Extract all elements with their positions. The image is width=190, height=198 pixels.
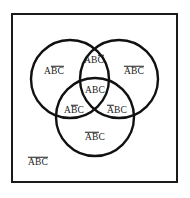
region-label-abc-plain: ABC bbox=[85, 86, 105, 96]
venn-circles-group bbox=[0, 0, 190, 198]
region-label-bc-not-a-bar: A bbox=[107, 105, 114, 116]
region-label-a-only-plain: A bbox=[44, 67, 51, 77]
region-label-ab-not-c-plain: AB bbox=[84, 56, 98, 66]
region-label-c-only-plain: C bbox=[99, 133, 106, 143]
region-label-b-only-bar: ABC bbox=[124, 66, 144, 77]
region-label-c-only: ABC bbox=[85, 132, 105, 143]
region-label-outside-bar: ABC bbox=[28, 157, 48, 168]
region-label-ac-not-b-plain-head: A bbox=[64, 106, 71, 116]
region-label-ab-not-c: ABC bbox=[84, 55, 104, 66]
region-label-outside: ABC bbox=[28, 157, 48, 168]
region-label-bc-not-a-plain: BC bbox=[114, 106, 127, 116]
region-label-a-only: ABC bbox=[44, 66, 64, 77]
region-label-a-only-bar: BC bbox=[51, 66, 64, 77]
region-label-abc: ABC bbox=[85, 86, 105, 96]
region-label-ac-not-b: ABC bbox=[64, 105, 84, 116]
region-label-ab-not-c-bar: C bbox=[98, 55, 105, 66]
region-label-b-only: ABC bbox=[124, 66, 144, 77]
region-label-ac-not-b-plain-tail: C bbox=[78, 106, 85, 116]
venn-diagram-figure: ABC ABC ABC ABC ABC ABC ABC ABC bbox=[0, 0, 190, 198]
region-label-bc-not-a: ABC bbox=[107, 105, 127, 116]
region-label-c-only-bar: AB bbox=[85, 132, 99, 143]
